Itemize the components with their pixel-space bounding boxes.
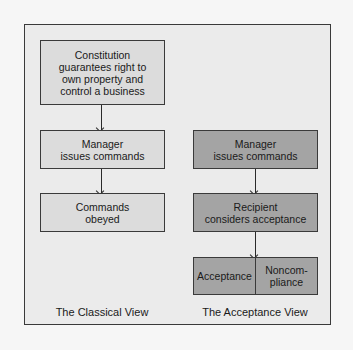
classical-box-obeyed: Commands obeyed [40,193,165,232]
classical-caption: The Classical View [22,306,182,318]
acceptance-box-manager: Manager issues commands [193,130,318,169]
arrow-down-icon [255,232,256,257]
classical-box-constitution: Constitution guarantees right to own pro… [40,40,165,105]
acceptance-caption: The Acceptance View [175,306,335,318]
outcome-noncompliance: Noncom- pliance [255,258,317,294]
arrow-down-icon [101,105,102,130]
outcome-acceptance: Acceptance [194,258,255,294]
arrow-down-icon [101,169,102,193]
acceptance-box-recipient: Recipient considers acceptance [193,193,318,232]
acceptance-outcomes: Acceptance Noncom- pliance [193,257,318,295]
classical-box-manager: Manager issues commands [40,130,165,169]
arrow-down-icon [255,169,256,193]
